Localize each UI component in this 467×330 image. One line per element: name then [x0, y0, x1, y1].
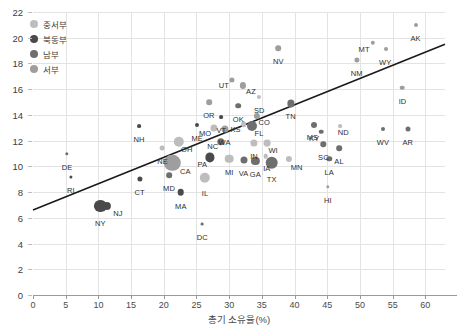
data-point-label-ne: NE	[157, 157, 168, 166]
y-tick-label: 2	[18, 264, 23, 275]
data-point-label-ga: GA	[250, 170, 261, 179]
data-point-label-ri: RI	[67, 186, 75, 195]
data-point-label-ma: MA	[175, 202, 186, 211]
data-point-label-me: ME	[191, 134, 202, 143]
data-point-nv[interactable]	[275, 45, 281, 51]
data-point-va[interactable]	[240, 156, 247, 163]
x-tick-label: 40	[290, 300, 300, 310]
gridline-vertical	[360, 12, 361, 295]
data-point-ia[interactable]	[264, 154, 269, 159]
data-point-label-md: MD	[163, 184, 175, 193]
x-tick-mark	[164, 295, 165, 299]
data-point-ma[interactable]	[177, 189, 184, 196]
data-point-label-ut: UT	[219, 81, 229, 90]
gridline-vertical	[164, 12, 165, 295]
y-tick-label: 16	[12, 84, 23, 95]
data-point-label-tx: TX	[267, 175, 277, 184]
y-tick-mark	[28, 166, 32, 167]
data-point-ar[interactable]	[405, 127, 410, 132]
data-point-label-dc: DC	[197, 233, 208, 242]
data-point-label-ia: IA	[263, 164, 270, 173]
data-point-label-mi: MI	[225, 168, 234, 177]
data-point-ky[interactable]	[311, 122, 317, 128]
x-tick-mark	[196, 295, 197, 299]
x-tick-mark	[393, 295, 394, 299]
data-point-nh[interactable]	[137, 125, 141, 129]
y-tick-mark	[28, 63, 32, 64]
data-point-label-oh: OH	[181, 145, 192, 154]
legend-label: 중서부	[43, 18, 67, 30]
x-tick-mark	[262, 295, 263, 299]
data-point-label-wi: WI	[268, 146, 277, 155]
data-point-ak[interactable]	[414, 23, 418, 27]
data-point-label-hi: HI	[324, 196, 332, 205]
data-point-ne[interactable]	[160, 146, 165, 151]
gridline-vertical	[98, 12, 99, 295]
x-tick-label: 55	[388, 300, 398, 310]
legend-swatch-0	[30, 20, 38, 28]
x-tick-mark	[66, 295, 67, 299]
data-point-ok[interactable]	[236, 103, 242, 109]
legend-label: 북동부	[43, 33, 67, 45]
y-tick-mark	[28, 218, 32, 219]
data-point-label-mt: MT	[359, 45, 370, 54]
x-tick-mark	[131, 295, 132, 299]
data-point-label-or: OR	[203, 111, 214, 120]
gridline-horizontal	[33, 166, 445, 167]
data-point-vt[interactable]	[219, 116, 223, 120]
data-point-me[interactable]	[195, 123, 199, 127]
y-tick-label: 0	[18, 290, 23, 301]
legend-item[interactable]: 남부	[30, 47, 67, 60]
legend: 중서부북동부남부서부	[30, 17, 67, 75]
gridline-horizontal	[33, 89, 445, 90]
x-tick-label: 45	[322, 300, 332, 310]
legend-item[interactable]: 서부	[30, 62, 67, 75]
x-tick-mark	[425, 295, 426, 299]
data-point-label-ct: CT	[134, 188, 144, 197]
gridline-horizontal	[33, 192, 445, 193]
legend-swatch-2	[30, 50, 38, 58]
y-tick-label: 20	[12, 32, 23, 43]
y-tick-mark	[28, 192, 32, 193]
data-point-label-va: VA	[239, 169, 249, 178]
y-tick-label: 8	[18, 187, 23, 198]
x-tick-label: 50	[355, 300, 365, 310]
data-point-ms[interactable]	[319, 129, 324, 134]
scatter-chart: 051015202530354045505560 024681012141618…	[0, 0, 467, 330]
data-point-mi[interactable]	[225, 154, 234, 163]
data-point-dc[interactable]	[201, 223, 204, 226]
gridline-vertical	[393, 12, 394, 295]
data-point-al[interactable]	[336, 146, 342, 152]
data-point-wy[interactable]	[384, 47, 388, 51]
y-tick-mark	[28, 295, 32, 296]
data-point-label-nj: NJ	[113, 209, 122, 218]
data-point-wv[interactable]	[381, 127, 385, 131]
legend-item[interactable]: 북동부	[30, 32, 67, 45]
data-point-or[interactable]	[206, 99, 212, 105]
y-tick-label: 14	[12, 109, 23, 120]
data-point-label-nv: NV	[273, 57, 284, 66]
gridline-vertical	[425, 12, 426, 295]
x-tick-mark	[327, 295, 328, 299]
y-tick-mark	[28, 244, 32, 245]
data-point-label-mn: MN	[291, 163, 303, 172]
gridline-horizontal	[33, 244, 445, 245]
x-tick-mark	[360, 295, 361, 299]
x-tick-label: 10	[93, 300, 103, 310]
legend-item[interactable]: 중서부	[30, 17, 67, 30]
data-point-id[interactable]	[400, 86, 405, 91]
data-point-md[interactable]	[166, 173, 172, 179]
data-point-label-nh: NH	[133, 135, 144, 144]
data-point-label-az: AZ	[246, 87, 256, 96]
x-tick-label: 5	[63, 300, 68, 310]
y-tick-mark	[28, 141, 32, 142]
plot-area	[33, 12, 445, 295]
data-point-label-nd: ND	[338, 128, 349, 137]
data-point-label-nm: NM	[351, 69, 363, 78]
data-point-label-nc: NC	[207, 142, 218, 151]
data-point-label-wv: WV	[377, 138, 389, 147]
data-point-label-ak: AK	[410, 34, 420, 43]
y-tick-mark	[28, 115, 32, 116]
y-tick-label: 6	[18, 212, 23, 223]
data-point-label-ca: CA	[180, 167, 191, 176]
